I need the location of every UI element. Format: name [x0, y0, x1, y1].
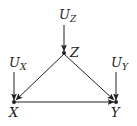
edge-z-y: [64, 54, 114, 100]
label-z: Z: [69, 45, 80, 60]
node-z-dot: [62, 51, 66, 55]
label-x: X: [8, 105, 19, 120]
node-y-dot: [114, 100, 118, 104]
label-y: Y: [111, 105, 121, 120]
label-uz: UZ: [59, 7, 77, 24]
edge-z-x: [16, 54, 64, 100]
label-uy: UY: [111, 55, 129, 72]
node-x-dot: [12, 100, 16, 104]
causal-diagram: UZ Z UX UY X Y: [0, 0, 137, 126]
label-ux: UX: [9, 55, 27, 72]
